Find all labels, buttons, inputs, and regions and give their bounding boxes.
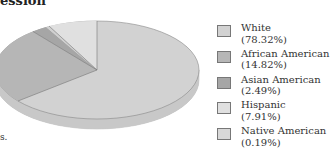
legend-percent: (7.91%)	[241, 111, 286, 123]
legend-swatch	[217, 25, 231, 37]
legend-percent: (0.19%)	[241, 137, 326, 149]
legend-percent: (78.32%)	[241, 34, 287, 46]
pie-chart	[0, 0, 210, 154]
legend-label: White	[241, 22, 287, 34]
legend-swatch	[217, 51, 231, 63]
legend-label: Native American	[241, 125, 326, 137]
legend-percent: (14.82%)	[241, 59, 330, 71]
legend-swatch	[217, 128, 231, 140]
legend-swatch	[217, 77, 231, 89]
legend-label: African American	[241, 48, 330, 60]
legend-swatch	[217, 102, 231, 114]
footnote: s.	[0, 132, 7, 142]
legend-percent: (2.49%)	[241, 85, 321, 97]
legend-label: Hispanic	[241, 99, 286, 111]
legend-label: Asian American	[241, 74, 321, 86]
